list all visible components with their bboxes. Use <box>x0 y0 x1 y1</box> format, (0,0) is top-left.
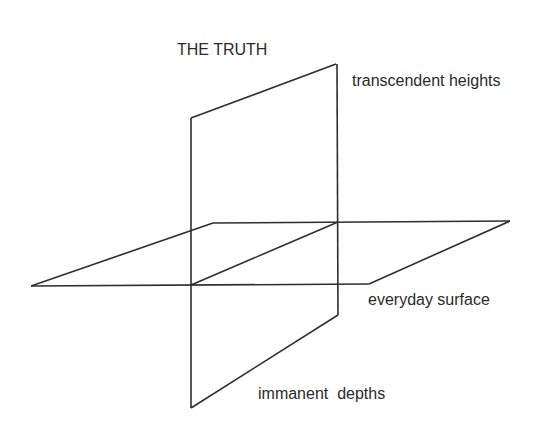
horizontal-plane-left-edge <box>31 223 213 286</box>
label-immanent-depths: immanent depths <box>258 385 385 402</box>
label-transcendent-heights: transcendent heights <box>352 72 501 89</box>
horizontal-plane <box>31 221 510 286</box>
label-everyday-surface: everyday surface <box>368 291 490 308</box>
plane-intersection-line <box>191 222 338 285</box>
horizontal-plane-back-edge <box>213 221 510 223</box>
vertical-plane-right-edge <box>337 64 338 315</box>
horizontal-plane-front-edge <box>31 284 369 286</box>
horizontal-plane-right-edge <box>369 221 510 284</box>
truth-planes-diagram: THE TRUTH transcendent heights everyday … <box>0 0 551 438</box>
vertical-plane-top-edge <box>191 64 336 118</box>
vertical-plane <box>191 64 338 408</box>
diagram-title: THE TRUTH <box>177 41 267 58</box>
